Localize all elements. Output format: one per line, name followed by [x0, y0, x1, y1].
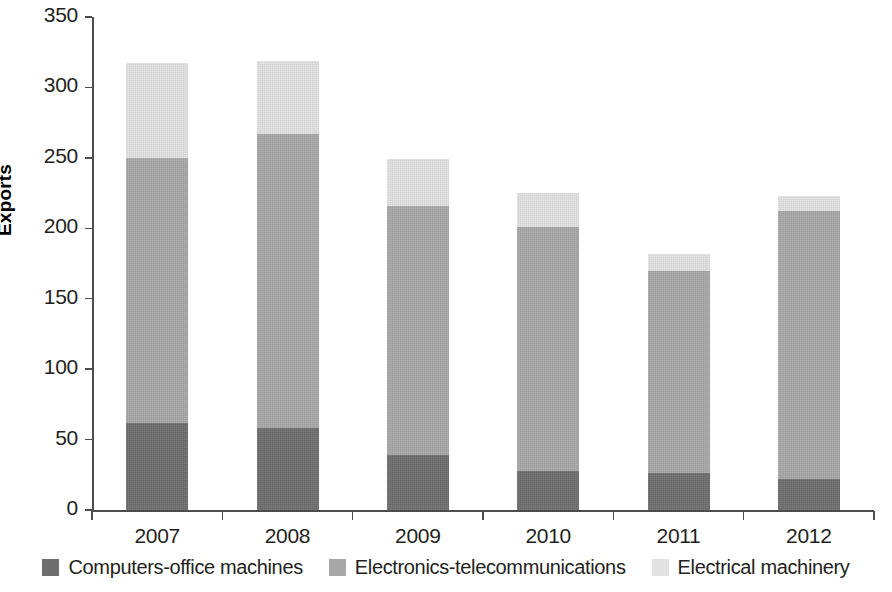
x-axis-tick-label: 2010	[498, 524, 598, 548]
y-axis-tick	[85, 157, 92, 159]
legend-label: Computers-office machines	[68, 556, 302, 579]
y-axis-tick-label: 150	[18, 285, 78, 309]
bar-segment-electronics[interactable]	[778, 211, 840, 479]
bar-segment-electronics[interactable]	[517, 227, 579, 471]
y-axis-tick-label: 300	[18, 73, 78, 97]
bar-segment-electrical[interactable]	[257, 61, 319, 134]
y-axis-tick	[85, 16, 92, 18]
bar-stack[interactable]	[517, 193, 579, 510]
x-axis-tick-label: 2012	[759, 524, 859, 548]
legend-label: Electronics-telecommunications	[355, 556, 626, 579]
y-axis-tick-label: 250	[18, 144, 78, 168]
y-axis-tick-label: 100	[18, 355, 78, 379]
x-axis-tick-label: 2009	[368, 524, 468, 548]
legend-label: Electrical machinery	[678, 556, 850, 579]
legend-swatch-icon	[329, 559, 346, 576]
legend-swatch-icon	[42, 559, 59, 576]
bar-segment-electrical[interactable]	[648, 254, 710, 271]
bar-segment-electronics[interactable]	[648, 271, 710, 474]
bar-stack[interactable]	[257, 61, 319, 510]
chart-legend: Computers-office machinesElectronics-tel…	[0, 556, 892, 579]
bar-segment-computers[interactable]	[517, 471, 579, 510]
y-axis-tick	[85, 228, 92, 230]
bar-segment-electrical[interactable]	[126, 63, 188, 157]
bar-stack[interactable]	[648, 254, 710, 510]
y-axis-tick	[85, 87, 92, 89]
bar-stack[interactable]	[126, 63, 188, 510]
y-axis-tick	[85, 439, 92, 441]
x-axis-tick-label: 2011	[629, 524, 729, 548]
y-axis-tick-label: 50	[18, 426, 78, 450]
bar-segment-computers[interactable]	[648, 473, 710, 510]
bar-segment-electronics[interactable]	[387, 206, 449, 455]
y-axis-tick-label: 200	[18, 214, 78, 238]
bar-segment-computers[interactable]	[778, 479, 840, 510]
y-axis-tick	[85, 368, 92, 370]
x-axis-tick-label: 2008	[238, 524, 338, 548]
y-axis-tick-label: 0	[18, 496, 78, 520]
y-axis-tick-label: 350	[18, 3, 78, 27]
bar-segment-electronics[interactable]	[257, 134, 319, 428]
x-axis-tick-label: 2007	[107, 524, 207, 548]
y-axis-title: Exports	[0, 164, 16, 236]
legend-item[interactable]: Computers-office machines	[42, 556, 302, 579]
bar-segment-computers[interactable]	[387, 455, 449, 510]
bar-stack[interactable]	[778, 196, 840, 510]
legend-item[interactable]: Electrical machinery	[652, 556, 850, 579]
bar-stack[interactable]	[387, 159, 449, 510]
bar-segment-computers[interactable]	[257, 428, 319, 510]
stacked-bar-chart: Exports 050100150200250300350 2007200820…	[0, 0, 892, 592]
plot-area	[92, 10, 874, 515]
bar-segment-electrical[interactable]	[517, 193, 579, 227]
bar-segment-electrical[interactable]	[387, 159, 449, 205]
legend-swatch-icon	[652, 559, 669, 576]
bar-segment-electronics[interactable]	[126, 158, 188, 423]
bar-segment-electrical[interactable]	[778, 196, 840, 211]
legend-item[interactable]: Electronics-telecommunications	[329, 556, 626, 579]
y-axis-tick	[85, 298, 92, 300]
bar-segment-computers[interactable]	[126, 423, 188, 510]
